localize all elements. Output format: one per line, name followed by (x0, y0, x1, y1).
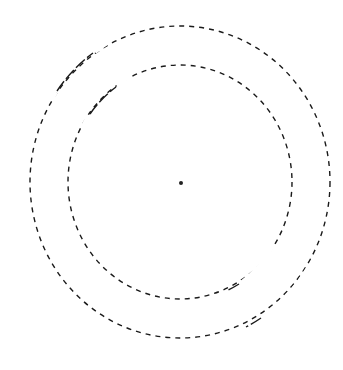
inner-ring-long-arc (90, 87, 116, 114)
center-dot (179, 181, 183, 185)
outer-ring-gap-upper-2 (95, 41, 110, 52)
outer-ring-gap-upper (52, 92, 56, 100)
inner-ring-gap-upper (117, 76, 130, 86)
diagram-canvas (0, 0, 343, 370)
inner-ring-gap-left (82, 115, 89, 128)
inner-ring-gap (241, 244, 274, 283)
outer-ring-lower-arc (246, 318, 261, 327)
